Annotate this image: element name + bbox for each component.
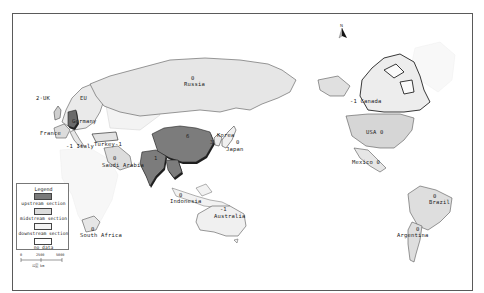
label-turkey: Turkey-1 xyxy=(94,141,122,147)
label-usa: USA 0 xyxy=(366,129,384,135)
southeast-asia-region xyxy=(166,160,182,178)
label-saudi-arabia: Saudi Arabia xyxy=(102,162,144,168)
legend-label-downstream: downstream section xyxy=(17,231,70,236)
label-france: France xyxy=(40,130,61,136)
label-canada: -1 Canada xyxy=(350,98,382,104)
label-italy: -1 Italy xyxy=(66,143,94,149)
legend-swatch-no-data xyxy=(34,238,52,245)
russia-region xyxy=(90,58,296,116)
legend-swatch-downstream xyxy=(34,223,52,230)
label-germany: Germany xyxy=(72,118,97,124)
argentina-region xyxy=(408,222,422,262)
label-argentina: Argentina xyxy=(397,232,429,238)
label-mexico: Mexico 0 xyxy=(352,159,380,165)
value-saudi-arabia: 0 xyxy=(113,155,116,161)
value-china: 6 xyxy=(186,133,189,139)
label-russia: Russia xyxy=(184,81,205,87)
svg-text:N: N xyxy=(340,23,343,28)
label-korea: Korea xyxy=(217,132,235,138)
label-japan: Japan xyxy=(226,146,244,152)
label-australia: Australia xyxy=(214,213,246,219)
legend: Legend upstream section midstream sectio… xyxy=(16,183,69,250)
label-brazil: Brazil xyxy=(429,199,450,205)
india-region xyxy=(140,150,166,186)
scale-bar-line xyxy=(20,257,70,263)
legend-label-upstream: upstream section xyxy=(17,201,70,206)
north-arrow: N xyxy=(338,22,350,40)
uk-region xyxy=(54,106,61,120)
label-eu: EU xyxy=(80,95,87,101)
value-japan: 0 xyxy=(236,139,239,145)
legend-swatch-midstream xyxy=(34,208,52,215)
legend-label-no-data: no data xyxy=(17,245,70,250)
value-india: 1 xyxy=(154,155,157,161)
legend-label-midstream: midstream section xyxy=(17,216,70,221)
value-australia: -1 xyxy=(220,206,227,212)
legend-swatch-upstream xyxy=(34,193,52,200)
scale-unit: 公里 km xyxy=(32,263,44,268)
label-south-africa: South Africa xyxy=(80,232,122,238)
scale-bar: 0 2500 5000 公里 km xyxy=(20,253,70,267)
alaska-region xyxy=(318,76,350,96)
label-uk: 2·UK xyxy=(36,95,50,101)
north-arrow-icon: N xyxy=(338,22,350,40)
legend-title: Legend xyxy=(17,186,70,192)
value-korea: 3 xyxy=(210,139,213,145)
label-indonesia: Indonesia xyxy=(170,198,202,204)
